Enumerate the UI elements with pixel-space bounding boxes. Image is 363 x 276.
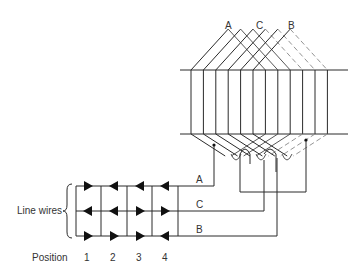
phase-label-a: A	[225, 20, 232, 31]
arrow-left-icon	[109, 206, 118, 216]
lead-b	[178, 158, 277, 236]
line-label-c: C	[196, 199, 203, 210]
coil-end-turn	[278, 29, 315, 70]
line-label-a: A	[196, 174, 203, 185]
terminal-dot	[212, 143, 215, 146]
position-label: Position	[32, 252, 68, 263]
phase-label-c: C	[256, 20, 263, 31]
coil-group	[191, 29, 327, 156]
position-3: 3	[136, 252, 142, 263]
arrow-right-icon	[161, 206, 170, 216]
arrow-right-icon	[84, 181, 93, 191]
arrow-right-icon	[84, 231, 93, 241]
position-2: 2	[110, 252, 116, 263]
arrow-left-icon	[109, 181, 118, 191]
position-4: 4	[162, 252, 168, 263]
arrow-right-icon	[136, 231, 145, 241]
position-1: 1	[84, 252, 90, 263]
arrow-right-icon	[136, 206, 145, 216]
arrow-left-icon	[160, 231, 169, 241]
arrow-left-icon	[160, 181, 169, 191]
arrow-left-icon	[135, 181, 144, 191]
line-label-b: B	[196, 224, 203, 235]
connection-loop	[282, 154, 292, 160]
terminal-dot	[304, 138, 307, 141]
brace-icon	[63, 184, 72, 238]
coil-end-turn	[290, 29, 327, 70]
line-wires-label: Line wires	[17, 205, 62, 216]
connection-loop	[240, 149, 250, 164]
winding-diagram: A C B A C B Line wires Position 1 2 3 4	[0, 0, 363, 276]
arrow-left-icon	[83, 206, 92, 216]
end-connections	[178, 138, 308, 236]
phase-label-b: B	[288, 20, 295, 31]
arrow-right-icon	[110, 231, 119, 241]
